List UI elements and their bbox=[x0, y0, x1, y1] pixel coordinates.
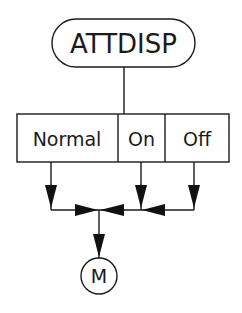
diagram-canvas: ATTDISP Normal On Off M bbox=[0, 0, 242, 313]
option-off: Off bbox=[183, 128, 212, 150]
arrow-down-icon-off bbox=[188, 185, 200, 208]
option-on: On bbox=[128, 128, 155, 150]
arrow-left-icon-2 bbox=[142, 204, 165, 216]
terminal-node: M bbox=[81, 258, 117, 294]
arrow-right-icon bbox=[75, 204, 98, 216]
arrow-down-icon-terminal bbox=[93, 234, 105, 257]
arrow-left-icon-1 bbox=[100, 204, 124, 216]
options-box: Normal On Off bbox=[17, 114, 229, 162]
title-node-label: ATTDISP bbox=[70, 29, 177, 59]
arrow-down-icon-normal bbox=[45, 185, 57, 208]
terminal-node-label: M bbox=[91, 265, 107, 287]
arrow-down-icon-on bbox=[135, 185, 147, 208]
option-normal: Normal bbox=[33, 128, 102, 150]
title-node: ATTDISP bbox=[52, 19, 195, 67]
